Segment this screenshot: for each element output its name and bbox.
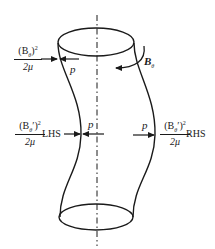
lhs-magnetic-pressure-label: (Bθ′)2 2μ bbox=[15, 120, 45, 147]
rhs-pressure-label: p bbox=[142, 120, 148, 131]
b-theta-curved-arrow bbox=[116, 46, 144, 68]
top-magnetic-pressure-label: (Bθ)2 2μ bbox=[14, 45, 42, 72]
rhs-label: RHS bbox=[186, 129, 205, 139]
lhs-pressure-label: p bbox=[88, 119, 94, 130]
lhs-label: LHS bbox=[42, 129, 61, 139]
top-pressure-label: p bbox=[70, 64, 76, 75]
b-theta-label: Bθ bbox=[144, 56, 154, 69]
bottom-ellipse bbox=[59, 204, 133, 230]
top-ellipse bbox=[58, 28, 134, 56]
